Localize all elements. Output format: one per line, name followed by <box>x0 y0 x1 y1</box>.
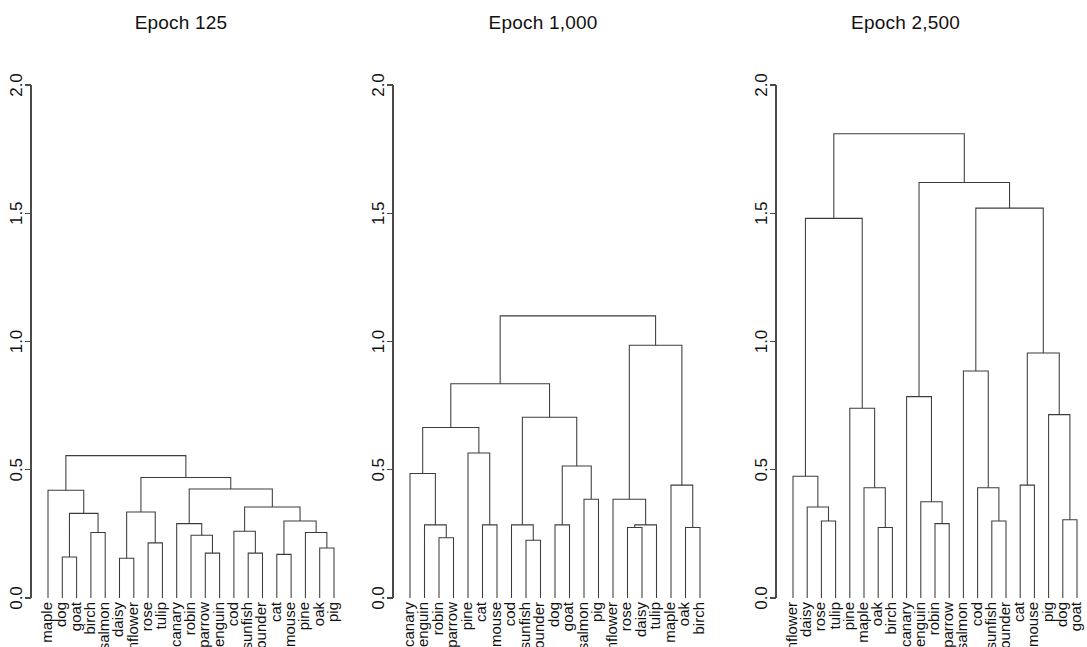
dendrogram-link <box>205 553 219 598</box>
dendrogram-link <box>613 499 646 598</box>
leaf-label: birch <box>690 602 707 635</box>
dendrogram-plot: 0.00.51.01.52.0sunflowerdaisyrosetulippi… <box>724 0 1087 647</box>
dendrogram-link <box>141 477 231 512</box>
dendrogram-link <box>628 527 643 598</box>
dendrogram-link <box>320 548 334 598</box>
dendrogram-link <box>963 371 988 598</box>
dendrogram-link <box>686 527 701 598</box>
y-axis-tick-label: 1.0 <box>369 330 388 354</box>
dendrogram-link <box>127 512 156 558</box>
y-axis-tick-label: 2.0 <box>752 73 771 97</box>
dendrogram-link <box>48 490 84 598</box>
dendrogram-link <box>512 525 534 598</box>
dendrogram-link <box>410 474 435 598</box>
dendrogram-link <box>562 466 591 525</box>
dendrogram-link <box>793 476 818 598</box>
leaf-label: goat <box>1067 601 1084 631</box>
dendrogram-link <box>635 525 657 598</box>
dendrogram-link <box>439 538 454 598</box>
dendrogram-link <box>834 134 964 219</box>
dendrogram-link <box>805 218 862 476</box>
dendrogram-link <box>522 417 576 525</box>
dendrogram-link <box>1049 415 1070 598</box>
dendrogram-link <box>148 543 162 598</box>
dendrogram-link <box>584 499 599 598</box>
dendrogram-link <box>935 524 949 598</box>
dendrogram-link <box>451 384 550 428</box>
y-axis-tick-label: 2.0 <box>369 73 388 97</box>
dendrogram-link <box>500 316 655 384</box>
dendrogram-plot: 0.00.51.01.52.0canarypenguinrobinsparrow… <box>362 0 725 647</box>
dendrogram-link <box>468 453 490 598</box>
dendrogram-link <box>1020 485 1034 598</box>
y-axis-tick-label: 0.0 <box>7 586 26 610</box>
dendrogram-panel-1: Epoch 1250.00.51.01.52.0mapledoggoatbirc… <box>0 0 362 647</box>
y-axis-tick-label: 1.5 <box>7 201 26 225</box>
dendrogram-link <box>284 521 316 554</box>
dendrogram-panel-3: Epoch 2,5000.00.51.01.52.0sunflowerdaisy… <box>724 0 1087 647</box>
dendrogram-link <box>66 456 186 491</box>
dendrogram-link <box>62 557 76 598</box>
dendrogram-link <box>245 507 300 531</box>
dendrogram-link <box>978 488 999 598</box>
dendrogram-link <box>919 182 1010 396</box>
dendrogram-link <box>850 408 875 598</box>
dendrogram-link <box>483 525 498 598</box>
dendrogram-link <box>277 554 291 598</box>
dendrogram-link <box>526 540 541 598</box>
y-axis-tick-label: 0.5 <box>369 458 388 482</box>
dendrogram-link <box>629 345 682 499</box>
dendrogram-link <box>821 521 835 598</box>
dendrogram-figure: Epoch 1250.00.51.01.52.0mapledoggoatbirc… <box>0 0 1087 647</box>
dendrogram-link <box>992 521 1006 598</box>
dendrogram-link <box>189 489 272 524</box>
dendrogram-link <box>878 527 892 598</box>
dendrogram-link <box>191 535 212 598</box>
y-axis-tick-label: 0.0 <box>752 586 771 610</box>
dendrogram-link <box>671 485 693 598</box>
y-axis-tick-label: 1.5 <box>752 201 771 225</box>
dendrogram-link <box>423 427 479 473</box>
dendrogram-link <box>555 525 570 598</box>
y-axis-tick-label: 1.0 <box>752 330 771 354</box>
dendrogram-link <box>234 531 255 598</box>
leaf-label: pig <box>324 602 341 622</box>
dendrogram-link <box>305 533 326 598</box>
dendrogram-link <box>248 553 262 598</box>
dendrogram-link <box>120 558 134 598</box>
dendrogram-link <box>425 525 447 598</box>
dendrogram-link <box>69 513 98 557</box>
y-axis-tick-label: 1.0 <box>7 330 26 354</box>
y-axis-tick-label: 0.0 <box>369 586 388 610</box>
y-axis-tick-label: 0.5 <box>7 458 26 482</box>
dendrogram-link <box>91 533 105 598</box>
y-axis-tick-label: 2.0 <box>7 73 26 97</box>
dendrogram-link <box>1027 353 1059 485</box>
dendrogram-panel-2: Epoch 1,0000.00.51.01.52.0canarypenguinr… <box>362 0 724 647</box>
dendrogram-link <box>907 397 932 598</box>
y-axis-tick-label: 1.5 <box>369 201 388 225</box>
dendrogram-link <box>921 502 942 598</box>
dendrogram-link <box>1063 520 1077 598</box>
y-axis-tick-label: 0.5 <box>752 458 771 482</box>
dendrogram-link <box>976 208 1043 371</box>
dendrogram-plot: 0.00.51.01.52.0mapledoggoatbirchsalmonda… <box>0 0 363 647</box>
dendrogram-link <box>864 488 885 598</box>
